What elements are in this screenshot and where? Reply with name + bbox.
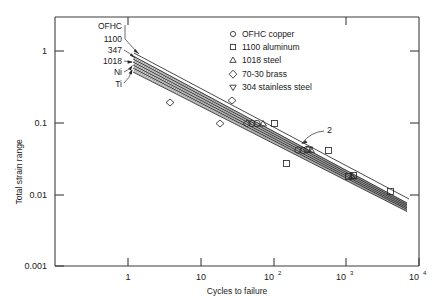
- legend-label-1018-steel: 1018 steel: [242, 55, 281, 65]
- x-tick-label-1e4-base: 10: [409, 272, 419, 282]
- legend-marker-inverted-triangle: [230, 85, 236, 90]
- legend-marker-square: [230, 44, 235, 49]
- annotation-2-group: 2: [301, 125, 332, 144]
- x-tick-label-10: 10: [196, 272, 206, 282]
- x-tick-label-1e2-exp: 2: [278, 270, 282, 276]
- legend-item-1100-aluminum: 1100 aluminum: [230, 42, 299, 52]
- y-axis-ticks: [55, 51, 419, 266]
- legend-item-ofhc-copper: OFHC copper: [230, 29, 294, 39]
- y-axis-tick-labels: 1 0.1 0.01 0.001: [24, 46, 47, 271]
- legend-marker-diamond: [229, 70, 237, 78]
- x-tick-label-1e2: 10 2: [264, 270, 282, 282]
- y-tick-label-0p1: 0.1: [34, 118, 47, 128]
- band-label-1018: 1018: [103, 56, 122, 66]
- x-tick-label-1e3-base: 10: [336, 272, 346, 282]
- legend: OFHC copper 1100 aluminum 1018 steel 70-…: [229, 29, 312, 92]
- band-label-347: 347: [108, 45, 122, 55]
- x-tick-label-1e4: 10 4: [409, 270, 427, 282]
- annotation-2-text: 2: [327, 125, 332, 135]
- y-tick-label-1: 1: [42, 46, 47, 56]
- x-axis-title: Cycles to failure: [207, 286, 268, 296]
- legend-marker-circle: [230, 31, 235, 36]
- legend-label-304-stainless-steel: 304 stainless steel: [242, 82, 312, 92]
- band-label-ofhc: OFHC: [98, 21, 122, 31]
- band-curve-1100: [133, 59, 407, 205]
- y-axis-title: Total strain range: [14, 139, 24, 204]
- chart-figure: 1 0.1 0.01 0.001 Total strain range 1 10…: [0, 0, 438, 303]
- legend-label-70-30-brass: 70-30 brass: [242, 69, 287, 79]
- x-tick-label-1e3: 10 3: [336, 270, 354, 282]
- legend-label-ofhc-copper: OFHC copper: [242, 29, 295, 39]
- band-curve-ti: [133, 72, 407, 212]
- series-markers-1100-aluminum: [272, 121, 394, 195]
- x-tick-label-1: 1: [125, 272, 130, 282]
- legend-marker-triangle: [230, 57, 236, 62]
- legend-item-70-30-brass: 70-30 brass: [229, 69, 287, 79]
- band-label-group: OFHC 1100 347 1018 Ni Ti: [98, 21, 139, 89]
- fatigue-log-log-plot: 1 0.1 0.01 0.001 Total strain range 1 10…: [0, 0, 438, 303]
- y-tick-label-0p001: 0.001: [24, 261, 47, 271]
- band-label-ni: Ni: [114, 67, 122, 77]
- legend-item-1018-steel: 1018 steel: [230, 55, 282, 65]
- x-tick-label-1e2-base: 10: [264, 272, 274, 282]
- legend-item-304-stainless-steel: 304 stainless steel: [230, 82, 312, 92]
- x-tick-label-1e3-exp: 3: [350, 270, 354, 276]
- band-label-1100: 1100: [104, 34, 123, 44]
- x-tick-label-1e4-exp: 4: [423, 270, 427, 276]
- band-label-ti: Ti: [115, 79, 122, 89]
- y-tick-label-0p01: 0.01: [29, 190, 47, 200]
- legend-label-1100-aluminum: 1100 aluminum: [242, 42, 300, 52]
- x-axis-tick-labels: 1 10 10 2 10 3 10 4: [125, 270, 427, 282]
